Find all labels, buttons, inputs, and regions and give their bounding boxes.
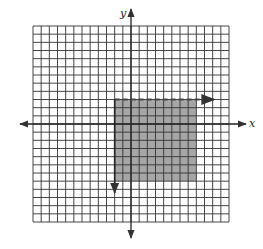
x-axis-label: x	[249, 117, 256, 130]
y-axis-label: y	[119, 7, 127, 20]
coordinate-plane: x y	[0, 0, 263, 249]
